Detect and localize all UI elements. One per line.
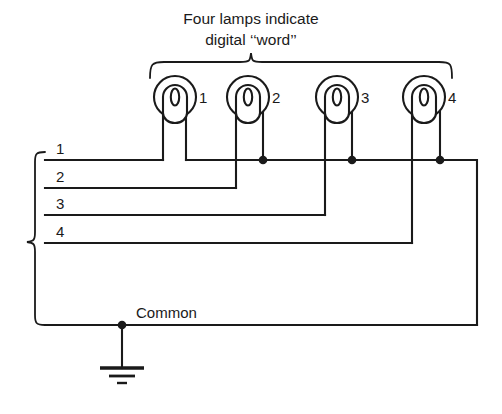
- lamp-2-label: 2: [272, 89, 280, 106]
- lamp-4-filament: [420, 89, 428, 106]
- earth-ground-symbol: [100, 325, 144, 383]
- lamp-3: 3: [316, 76, 369, 215]
- lamp-1-filament: [171, 89, 179, 106]
- diagram-title-line-1: Four lamps indicate: [183, 10, 318, 27]
- lamp-4-label: 4: [448, 89, 456, 106]
- junction-dot-lamp-2: [259, 156, 268, 165]
- lamp-2: 2: [227, 76, 280, 188]
- lamp-3-filament: [333, 89, 341, 106]
- common-label: Common: [136, 304, 197, 321]
- signal-group-brace: [27, 152, 45, 325]
- diagram-title-line-2: digital ‘‘word’’: [205, 31, 297, 48]
- lamp-group-brace: [150, 53, 452, 78]
- junction-dot-ground: [118, 321, 127, 330]
- terminal-label-1: 1: [56, 140, 64, 157]
- lamp-1-label: 1: [199, 89, 207, 106]
- junction-dot-lamp-4: [436, 156, 445, 165]
- lamp-3-label: 3: [361, 89, 369, 106]
- junction-dot-lamp-3: [348, 156, 357, 165]
- lamp-2-filament: [244, 89, 252, 106]
- schematic-canvas: Four lamps indicate digital ‘‘word’’ 1 2: [0, 0, 502, 414]
- circuit-diagram: Four lamps indicate digital ‘‘word’’ 1 2: [0, 0, 502, 414]
- lamp-1: 1: [154, 76, 207, 160]
- terminal-label-3: 3: [56, 195, 64, 212]
- terminal-label-4: 4: [56, 223, 64, 240]
- terminal-label-2: 2: [56, 168, 64, 185]
